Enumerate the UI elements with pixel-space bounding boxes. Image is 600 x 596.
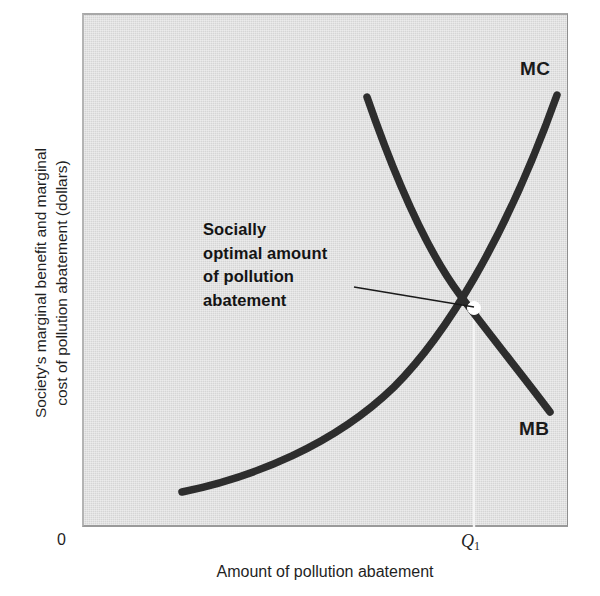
q1-main: Q [461, 531, 474, 551]
x-axis-title: Amount of pollution abatement [82, 563, 568, 581]
economics-figure: Socially optimal amount of pollution aba… [0, 0, 600, 596]
mb-curve [367, 97, 550, 412]
y-axis-title-line-1: Society's marginal benefit and marginal [30, 35, 51, 531]
q1-tick-label: Q1 [461, 531, 480, 554]
origin-tick-label: 0 [57, 531, 66, 549]
annotation-leader-line [350, 275, 485, 320]
annotation-line-3: of pollution [203, 265, 368, 289]
y-axis-title-line-2: cost of pollution abatement (dollars) [51, 35, 72, 531]
q1-subscript: 1 [474, 539, 480, 553]
annotation-line-4: abatement [203, 289, 368, 313]
annotation-line-1: Socially [203, 218, 368, 242]
y-axis-title: Society's marginal benefit and marginal … [30, 35, 72, 531]
annotation-line-2: optimal amount [203, 242, 368, 266]
optimum-annotation: Socially optimal amount of pollution aba… [203, 218, 368, 312]
mb-curve-label: MB [519, 418, 549, 440]
mc-curve-label: MC [520, 58, 550, 80]
